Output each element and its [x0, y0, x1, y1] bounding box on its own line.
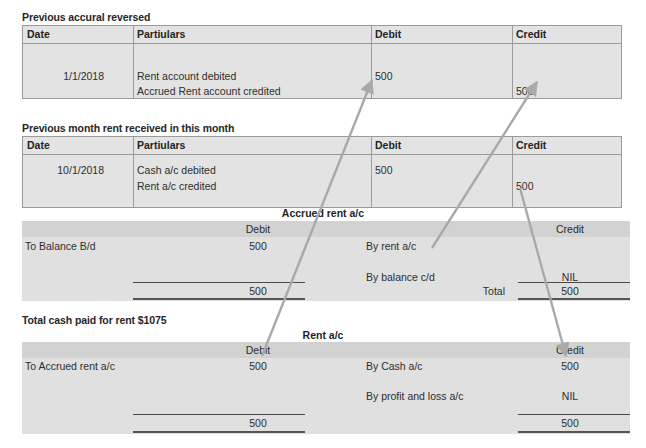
journal-2-header-credit: Credit: [516, 139, 546, 151]
document-page: Previous accural reversed Date Partiular…: [0, 0, 646, 448]
ledger-1-debit-header: Debit: [198, 223, 318, 235]
ledger-2-credit-header: Credit: [510, 344, 630, 356]
ledger-2-debit-total-rule-bottom: [133, 431, 305, 433]
journal-2-col-divider-credit: [512, 137, 513, 207]
ledger-1-credit-row-1-label: By balance c/d: [366, 271, 435, 283]
journal-2-caption: Previous month rent received in this mon…: [22, 122, 234, 134]
journal-1-header-particulars: Partiulars: [137, 28, 185, 40]
ledger-2-credit-row-1-amount: NIL: [510, 390, 630, 402]
ledger-1-debit-total-rule-bottom: [133, 298, 305, 300]
journal-1-header-date: Date: [27, 28, 50, 40]
journal-2-row-1-particulars: Rent a/c credited: [137, 180, 216, 192]
ledger-1-credit-total-rule-top: [518, 282, 630, 283]
ledger-1-debit-total-rule-top: [133, 282, 305, 283]
ledger-2-credit-row-0-label: By Cash a/c: [366, 360, 423, 372]
journal-1-row-1-credit: 500: [516, 85, 534, 97]
journal-2-header-rule: [23, 154, 621, 155]
ledger-2-debit-total-rule-top: [133, 414, 305, 415]
ledger-2-credit-total-rule-bottom: [518, 431, 630, 433]
ledger-2-credit-total: 500: [510, 417, 630, 429]
journal-2-row-0-particulars: Cash a/c debited: [137, 164, 216, 176]
ledger-2-debit-total: 500: [198, 417, 318, 429]
journal-2-col-divider-debit: [371, 137, 372, 207]
ledger-2-credit-row-1-label: By profit and loss a/c: [366, 390, 463, 402]
journal-2-col-divider-date: [133, 137, 134, 207]
ledger-2-credit-total-rule-top: [518, 414, 630, 415]
journal-1-caption: Previous accural reversed: [22, 11, 150, 23]
ledger-1-credit-total: 500: [510, 285, 630, 297]
journal-1-header-credit: Credit: [516, 28, 546, 40]
journal-1-col-divider-credit: [512, 26, 513, 98]
journal-1-row-0-debit: 500: [375, 70, 393, 82]
ledger-2-debit-row-0-label: To Accrued rent a/c: [25, 360, 115, 372]
journal-2-header-particulars: Partiulars: [137, 139, 185, 151]
ledger-2-debit-row-0-amount: 500: [198, 360, 318, 372]
ledger-1-debit-row-0-amount: 500: [198, 240, 318, 252]
journal-2-row-0-debit: 500: [375, 164, 393, 176]
ledger-2-credit-row-0-amount: 500: [510, 360, 630, 372]
journal-2-header-date: Date: [27, 139, 50, 151]
journal-1-row-1-particulars: Accrued Rent account credited: [137, 85, 281, 97]
ledger-2-debit-header: Debit: [198, 344, 318, 356]
ledger-1-title: Accrued rent a/c: [0, 207, 646, 219]
journal-2-row-0-date: 10/1/2018: [32, 164, 104, 176]
journal-2-header-debit: Debit: [375, 139, 401, 151]
ledger-2-title: Rent a/c: [0, 329, 646, 341]
ledger-1-credit-total-rule-bottom: [518, 298, 630, 300]
journal-2-row-1-credit: 500: [516, 180, 534, 192]
journal-1-row-0-date: 1/1/2018: [32, 70, 104, 82]
ledger-1-credit-row-0-label: By rent a/c: [366, 240, 416, 252]
ledger-1-credit-total-label: Total: [400, 285, 505, 297]
ledger-1-credit-header: Credit: [510, 223, 630, 235]
ledger-1-debit-total: 500: [198, 285, 318, 297]
journal-1-col-divider-debit: [371, 26, 372, 98]
journal-1-header-rule: [23, 43, 621, 44]
journal-1-header-debit: Debit: [375, 28, 401, 40]
journal-1-row-0-particulars: Rent account debited: [137, 70, 236, 82]
total-cash-paid-note: Total cash paid for rent $1075: [22, 314, 166, 326]
ledger-1-debit-row-0-label: To Balance B/d: [25, 240, 96, 252]
journal-1-col-divider-date: [133, 26, 134, 98]
